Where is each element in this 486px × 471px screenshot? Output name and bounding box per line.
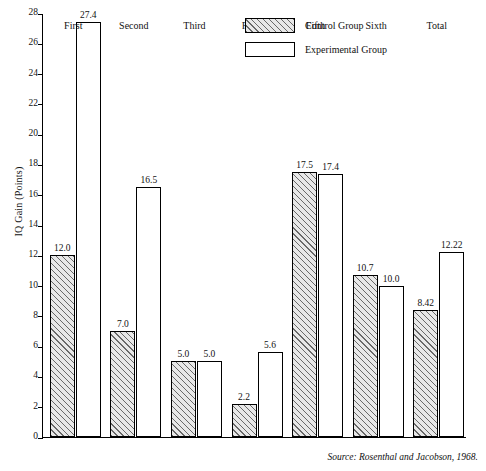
bar-value-label: 10.7 xyxy=(357,263,374,273)
bar-experimental: 5.0 xyxy=(197,361,222,437)
y-tick-label: 28 xyxy=(14,7,38,17)
bar-control: 7.0 xyxy=(110,331,135,437)
y-tick-mark xyxy=(38,74,43,75)
bar-value-label: 17.4 xyxy=(322,162,339,172)
bar-experimental: 10.0 xyxy=(379,286,404,437)
y-tick-mark xyxy=(38,44,43,45)
y-tick-mark xyxy=(38,438,43,439)
legend-item: Experimental Group xyxy=(245,42,387,57)
bar-group: 10.710.0 xyxy=(353,14,404,437)
y-tick-mark xyxy=(38,195,43,196)
y-tick-label: 24 xyxy=(14,68,38,78)
legend-item: Control Group xyxy=(245,18,387,33)
bar-experimental: 12.22 xyxy=(439,252,464,437)
bar-value-label: 5.6 xyxy=(264,340,276,350)
bar-value-label: 7.0 xyxy=(117,319,129,329)
legend-swatch xyxy=(245,42,295,57)
legend-swatch xyxy=(245,18,295,33)
bar-value-label: 10.0 xyxy=(383,274,400,284)
bar-group: 7.016.5 xyxy=(110,14,161,437)
bar-experimental: 5.6 xyxy=(258,352,283,437)
legend-label: Experimental Group xyxy=(305,44,387,55)
y-tick-label: 8 xyxy=(14,310,38,320)
bar-group: 17.517.4 xyxy=(292,14,343,437)
bar-experimental: 17.4 xyxy=(318,174,343,437)
source-note: Source: Rosenthal and Jacobson, 1968. xyxy=(327,452,478,462)
bar-control: 8.42 xyxy=(413,310,438,438)
y-tick-mark xyxy=(38,226,43,227)
bar-group: 12.027.4 xyxy=(50,14,101,437)
y-tick-label: 26 xyxy=(14,37,38,47)
bar-group: 5.05.0 xyxy=(171,14,222,437)
y-tick-label: 2 xyxy=(14,401,38,411)
x-axis-label: Second xyxy=(104,20,165,31)
bar-experimental: 27.4 xyxy=(76,22,101,437)
y-tick-mark xyxy=(38,256,43,257)
bar-control: 12.0 xyxy=(50,255,75,437)
y-tick-label: 4 xyxy=(14,370,38,380)
x-axis-label: First xyxy=(43,20,104,31)
bar-control: 2.2 xyxy=(232,404,257,437)
y-tick-mark xyxy=(38,407,43,408)
bar-control: 5.0 xyxy=(171,361,196,437)
y-tick-mark xyxy=(38,286,43,287)
y-tick-label: 10 xyxy=(14,280,38,290)
x-axis-label: Total xyxy=(406,20,467,31)
plot-area: 0246810121416182022242628 12.027.47.016.… xyxy=(42,14,466,438)
bar-experimental: 16.5 xyxy=(136,187,161,437)
y-tick-mark xyxy=(38,104,43,105)
bar-value-label: 5.0 xyxy=(177,349,189,359)
y-tick-mark xyxy=(38,377,43,378)
legend-label: Control Group xyxy=(305,20,364,31)
bar-value-label: 16.5 xyxy=(141,175,158,185)
y-tick-label: 6 xyxy=(14,340,38,350)
bar-value-label: 8.42 xyxy=(417,298,434,308)
bar-control: 17.5 xyxy=(292,172,317,437)
y-tick-mark xyxy=(38,347,43,348)
y-tick-mark xyxy=(38,165,43,166)
y-tick-mark xyxy=(38,135,43,136)
y-tick-label: 22 xyxy=(14,98,38,108)
y-tick-label: 12 xyxy=(14,249,38,259)
bar-group: 2.25.6 xyxy=(232,14,283,437)
bar-control: 10.7 xyxy=(353,275,378,437)
bar-value-label: 12.0 xyxy=(54,243,71,253)
bar-value-label: 17.5 xyxy=(296,160,313,170)
y-tick-label: 18 xyxy=(14,158,38,168)
bar-group: 8.4212.22 xyxy=(413,14,464,437)
bar-value-label: 5.0 xyxy=(203,349,215,359)
legend: Control GroupExperimental Group xyxy=(245,18,387,66)
bar-value-label: 2.2 xyxy=(238,392,250,402)
y-tick-mark xyxy=(38,316,43,317)
y-tick-label: 14 xyxy=(14,219,38,229)
bar-value-label: 12.22 xyxy=(441,240,462,250)
y-tick-label: 0 xyxy=(14,431,38,441)
x-axis-label: Third xyxy=(164,20,225,31)
y-tick-label: 20 xyxy=(14,128,38,138)
y-tick-label: 16 xyxy=(14,189,38,199)
bar-chart: IQ Gain (Points) 02468101214161820222426… xyxy=(0,0,486,471)
y-tick-mark xyxy=(38,14,43,15)
bar-value-label: 27.4 xyxy=(80,10,97,20)
